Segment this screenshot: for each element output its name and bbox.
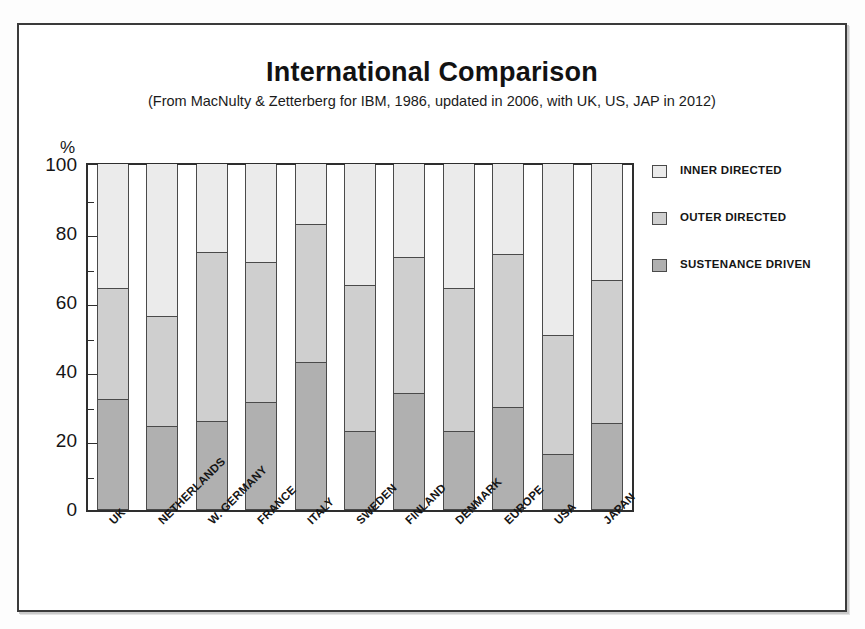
bar-france[interactable] (245, 165, 277, 510)
y-tick-mark-10 (88, 478, 94, 479)
segment-outer-directed (98, 288, 128, 398)
y-axis-labels: 020406080100 (19, 153, 83, 525)
segment-outer-directed (493, 254, 523, 408)
legend-label: INNER DIRECTED (680, 164, 782, 176)
legend-swatch-icon (652, 259, 667, 272)
y-tick-mark-20 (88, 443, 97, 444)
legend-item-inner-directed[interactable]: INNER DIRECTED (652, 165, 842, 212)
y-tick-label-60: 60 (56, 292, 77, 314)
segment-inner-directed (394, 164, 424, 257)
plot-area (86, 163, 634, 512)
segment-sustenance-driven (345, 431, 375, 509)
y-tick-label-40: 40 (56, 361, 77, 383)
y-tick-label-20: 20 (56, 430, 77, 452)
y-tick-mark-50 (88, 340, 94, 341)
y-tick-label-100: 100 (45, 154, 77, 176)
segment-inner-directed (98, 164, 128, 288)
bar-sweden[interactable] (344, 165, 376, 510)
legend-swatch-icon (652, 212, 667, 225)
bar-usa[interactable] (542, 165, 574, 510)
segment-inner-directed (345, 164, 375, 285)
segment-sustenance-driven (246, 402, 276, 509)
segment-sustenance-driven (394, 393, 424, 509)
segment-sustenance-driven (444, 431, 474, 509)
segment-outer-directed (296, 224, 326, 362)
chart-page: International Comparison (From MacNulty … (0, 0, 865, 629)
segment-inner-directed (444, 164, 474, 288)
y-tick-mark-70 (88, 271, 94, 272)
segment-outer-directed (444, 288, 474, 431)
segment-inner-directed (543, 164, 573, 335)
segment-sustenance-driven (147, 426, 177, 509)
chart-subtitle: (From MacNulty & Zetterberg for IBM, 198… (19, 93, 845, 109)
segment-sustenance-driven (98, 399, 128, 509)
legend-label: OUTER DIRECTED (680, 211, 786, 223)
segment-sustenance-driven (493, 407, 523, 509)
y-tick-mark-30 (88, 409, 94, 410)
bar-italy[interactable] (295, 165, 327, 510)
bar-uk[interactable] (97, 165, 129, 510)
segment-inner-directed (246, 164, 276, 262)
y-tick-label-80: 80 (56, 223, 77, 245)
segment-outer-directed (197, 252, 227, 421)
chart-legend: INNER DIRECTEDOUTER DIRECTEDSUSTENANCE D… (652, 165, 842, 306)
segment-outer-directed (147, 316, 177, 426)
segment-outer-directed (345, 285, 375, 432)
y-tick-mark-90 (88, 202, 94, 203)
segment-outer-directed (246, 262, 276, 402)
y-tick-mark-40 (88, 374, 97, 375)
segment-inner-directed (296, 164, 326, 224)
segment-inner-directed (197, 164, 227, 252)
segment-inner-directed (147, 164, 177, 316)
segment-sustenance-driven (296, 362, 326, 509)
segment-inner-directed (493, 164, 523, 254)
bar-japan[interactable] (591, 165, 623, 510)
bar-finland[interactable] (393, 165, 425, 510)
legend-item-sustenance-driven[interactable]: SUSTENANCE DRIVEN (652, 259, 842, 306)
y-tick-label-0: 0 (66, 499, 77, 521)
legend-swatch-icon (652, 165, 667, 178)
chart-title: International Comparison (19, 57, 845, 88)
bar-denmark[interactable] (443, 165, 475, 510)
segment-outer-directed (543, 335, 573, 454)
segment-sustenance-driven (592, 423, 622, 509)
y-tick-mark-80 (88, 236, 97, 237)
legend-item-outer-directed[interactable]: OUTER DIRECTED (652, 212, 842, 259)
legend-label: SUSTENANCE DRIVEN (680, 258, 811, 270)
segment-outer-directed (394, 257, 424, 393)
bar-netherlands[interactable] (146, 165, 178, 510)
x-axis-labels: UKNETHERLANDSW. GERMANYFRANCEITALYSWEDEN… (86, 512, 646, 607)
segment-outer-directed (592, 280, 622, 423)
segment-inner-directed (592, 164, 622, 280)
chart-frame: International Comparison (From MacNulty … (17, 23, 847, 612)
bar-europe[interactable] (492, 165, 524, 510)
y-tick-mark-60 (88, 305, 97, 306)
